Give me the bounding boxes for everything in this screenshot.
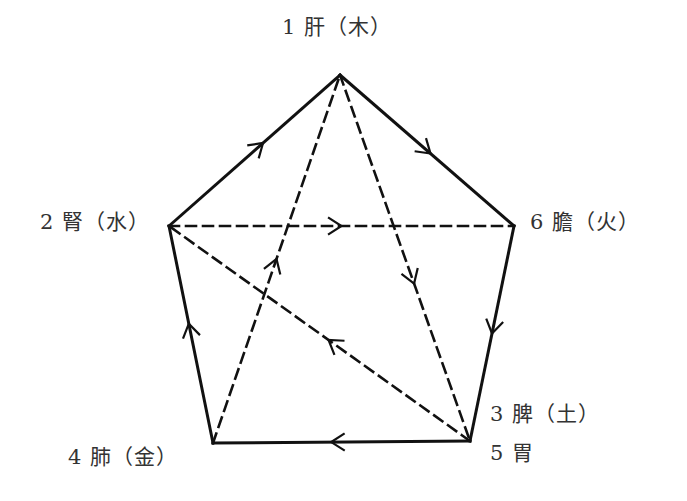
edge-n3-to-n2 [169, 226, 470, 441]
node-label-liver: 1 肝（木） [282, 10, 392, 40]
edge-n4-to-n2 [169, 226, 213, 443]
edge-n1-to-n6 [340, 75, 514, 226]
node-label-stomach: 5 胃 [490, 436, 534, 466]
edges-group [169, 75, 514, 451]
node-label-gallbladder: 6 膽（火） [530, 205, 640, 235]
node-label-lung: 4 肺（金） [68, 440, 178, 470]
node-label-kidney: 2 腎（水） [40, 205, 150, 235]
edge-n3-to-n4 [213, 441, 470, 443]
node-label-spleen: 3 脾（土） [490, 397, 600, 427]
